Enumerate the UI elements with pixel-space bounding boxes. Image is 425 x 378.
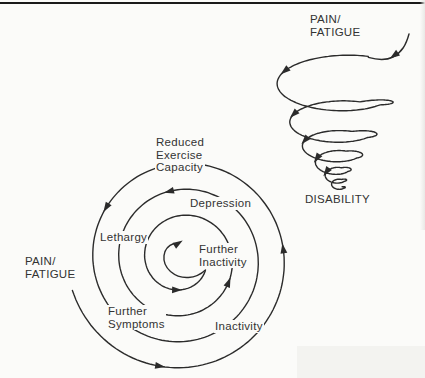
label-further-inactivity: Further Inactivity [198, 243, 248, 268]
arrowhead [224, 278, 231, 289]
label-depression: Depression [189, 197, 252, 210]
arrowhead [281, 65, 291, 74]
arrowhead [103, 202, 111, 212]
label-inactivity: Inactivity [214, 320, 264, 333]
label-further-symptoms: Further Symptoms [107, 305, 166, 330]
label-pain-fatigue-top: PAIN/ FATIGUE [309, 13, 361, 38]
arrowhead [281, 243, 288, 253]
arrowhead [390, 50, 400, 59]
book-page: Reduced Exercise Capacity Depression Let… [0, 0, 425, 378]
tornado-spiral-path [277, 55, 393, 189]
label-pain-fatigue-left: PAIN/ FATIGUE [24, 255, 76, 280]
main-spiral [72, 163, 287, 368]
arrowhead [290, 108, 300, 117]
main-spiral-path [72, 163, 284, 367]
label-reduced-exercise-capacity: Reduced Exercise Capacity [155, 136, 205, 174]
tornado-entry-hook [368, 34, 409, 59]
label-disability: DISABILITY [304, 193, 371, 206]
arrowhead [173, 241, 183, 249]
spiral-diagram-canvas [0, 0, 425, 378]
arrowhead [155, 362, 165, 369]
arrowhead [323, 166, 332, 176]
tornado-spiral [277, 34, 409, 189]
arrowhead [164, 187, 175, 194]
label-lethargy: Lethargy [99, 231, 148, 244]
arrowhead [172, 286, 182, 293]
